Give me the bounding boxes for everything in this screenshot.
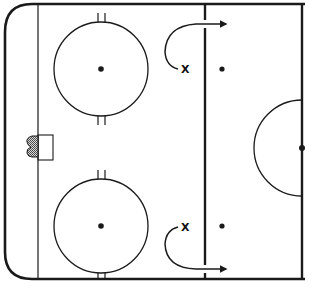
center-circle-half xyxy=(254,100,302,196)
faceoff-dot xyxy=(98,223,104,229)
hockey-rink-diagram: X X xyxy=(0,0,312,299)
neutral-zone-dot-top xyxy=(219,66,224,71)
faceoff-dot xyxy=(98,66,104,72)
skating-path-arrow-top xyxy=(165,24,226,69)
player-x-bottom: X xyxy=(181,221,190,234)
center-dot xyxy=(299,145,305,151)
goal-crease xyxy=(38,135,53,160)
neutral-zone-dot-bottom xyxy=(219,223,224,228)
top-faceoff-circle xyxy=(54,13,148,125)
goal-net xyxy=(27,136,38,157)
boards xyxy=(5,4,305,279)
player-x-top: X xyxy=(181,63,190,76)
bottom-faceoff-circle xyxy=(54,170,148,280)
skating-path-arrow-bottom xyxy=(165,227,226,269)
